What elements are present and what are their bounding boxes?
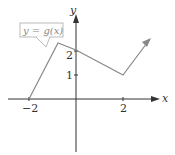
curve-label-pointer [36, 37, 50, 47]
graph-of-g: x y −2 2 1 2 y = g(x) [0, 0, 175, 155]
tick-label-y-1: 1 [66, 69, 73, 82]
tick-label-x-neg2: −2 [22, 102, 38, 115]
curve-arrow-icon [142, 38, 151, 47]
tick-label-x-2: 2 [120, 102, 127, 115]
tick-label-y-2: 2 [66, 49, 73, 62]
curve-g [29, 43, 147, 99]
x-axis-label: x [162, 92, 169, 105]
curve-label: y = g(x) [22, 25, 63, 36]
y-axis-label: y [69, 4, 77, 17]
x-axis-arrow-icon [151, 96, 160, 102]
